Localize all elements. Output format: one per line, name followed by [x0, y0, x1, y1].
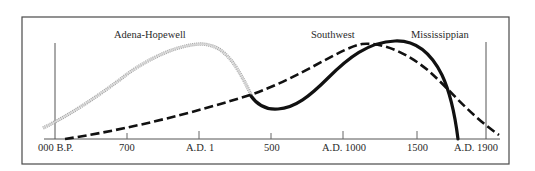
tick-label-500: 500: [264, 142, 280, 153]
label-adena-hopewell: Adena-Hopewell: [114, 29, 186, 40]
tick-label-ad1000: A.D. 1000: [322, 142, 366, 153]
tick-label-000bp: 000 B.P.: [38, 142, 73, 153]
tick-label-ad1: A.D. 1: [186, 142, 214, 153]
curve-mississippian: [251, 41, 458, 139]
label-southwest: Southwest: [311, 29, 355, 40]
curve-southwest: [65, 44, 499, 139]
tick-label-ad1900: A.D. 1900: [454, 142, 498, 153]
curve-adena-hopewell: [43, 44, 252, 128]
tick-label-1500: 1500: [407, 142, 428, 153]
label-mississippian: Mississippian: [411, 29, 470, 40]
tick-label-700: 700: [119, 142, 135, 153]
cultural-development-diagram: Adena-Hopewell Southwest Mississippian 0…: [0, 0, 535, 171]
